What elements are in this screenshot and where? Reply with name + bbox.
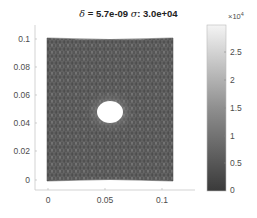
colorbar-tick-label: 0	[230, 185, 235, 195]
y-tick-label: 0.06	[13, 90, 30, 100]
chart-canvas: 0.1 0.08 0.06 0.04 0.02 0 0 0.05 0.1 2.5…	[0, 0, 257, 218]
mesh-plate	[47, 38, 173, 181]
y-tick-label: 0.08	[13, 62, 30, 72]
y-tick-label: 0.02	[13, 146, 30, 156]
y-tick-label: 0.04	[13, 118, 30, 128]
colorbar-exponent: ×104	[228, 11, 244, 21]
y-tick-label: 0	[25, 175, 30, 185]
x-tick-label: 0.05	[97, 195, 114, 205]
colorbar-tick-label: 2.5	[230, 47, 242, 57]
x-ticks: 0 0.05 0.1	[46, 188, 169, 205]
colorbar-tick-label: 2	[230, 75, 235, 85]
hole	[97, 101, 123, 123]
colorbar-tick-label: 1.5	[230, 103, 242, 113]
y-ticks: 0.1 0.08 0.06 0.04 0.02 0	[13, 34, 37, 185]
x-tick-label: 0.1	[156, 195, 168, 205]
colorbar-tick-label: 0.5	[230, 158, 242, 168]
y-tick-label: 0.1	[18, 34, 30, 44]
x-tick-label: 0	[46, 195, 51, 205]
colorbar: 2.5 2 1.5 1 0.5 0 ×104	[207, 11, 244, 195]
colorbar-tick-label: 1	[230, 131, 235, 141]
